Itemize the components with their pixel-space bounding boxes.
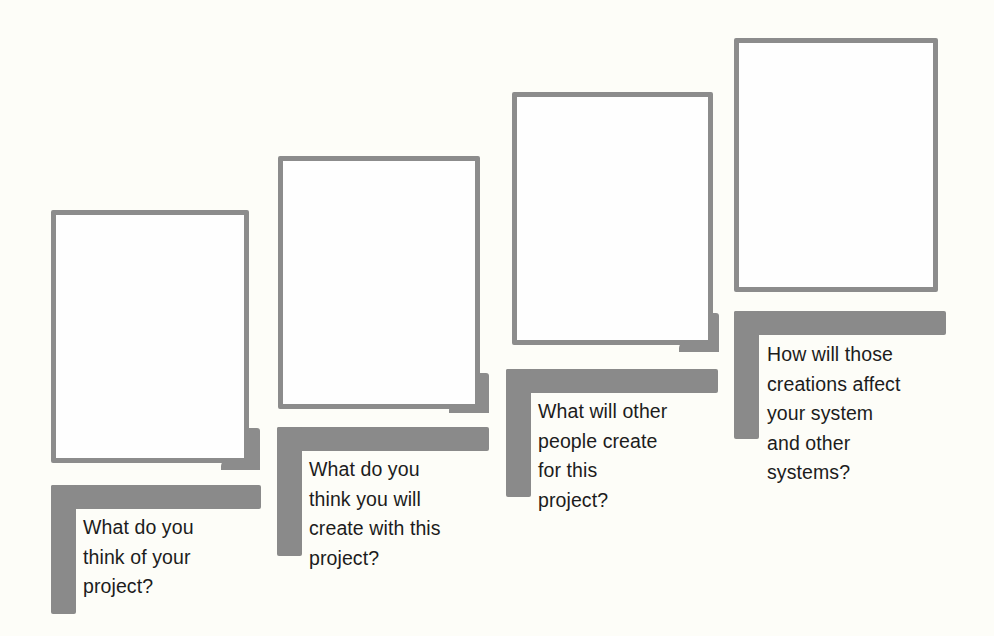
corner-tab-1-horizontal (221, 460, 260, 470)
bracket-3-vertical (506, 369, 531, 497)
bracket-2-vertical (277, 427, 302, 556)
bracket-1-horizontal (51, 485, 261, 509)
question-2: What do you think you will create with t… (309, 455, 441, 573)
question-1: What do you think of your project? (83, 513, 194, 602)
question-4: How will those creations affect your sys… (767, 340, 900, 488)
question-3: What will other people create for this p… (538, 397, 667, 515)
bracket-4-vertical (734, 311, 759, 439)
answer-box-2[interactable] (278, 156, 480, 409)
answer-box-1[interactable] (51, 210, 249, 463)
bracket-2-horizontal (277, 427, 489, 451)
corner-tab-2-horizontal (449, 404, 489, 413)
bracket-1-vertical (51, 485, 76, 614)
answer-box-4[interactable] (734, 38, 938, 292)
corner-tab-3-horizontal (679, 342, 719, 352)
bracket-3-horizontal (506, 369, 718, 393)
bracket-4-horizontal (734, 311, 946, 335)
answer-box-3[interactable] (512, 92, 713, 345)
